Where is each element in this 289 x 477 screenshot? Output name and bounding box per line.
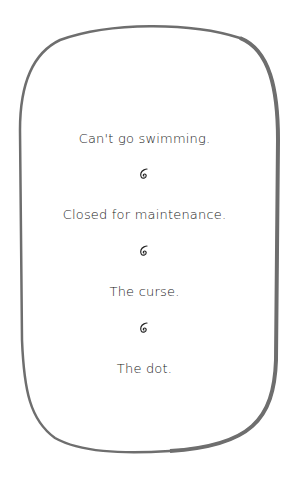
panel-line-2: Closed for maintenance.: [0, 207, 289, 222]
spiral-icon: [135, 166, 153, 184]
panel-border: [0, 0, 289, 477]
panel-line-3: The curse.: [0, 284, 289, 299]
panel-line-1: Can't go swimming.: [0, 131, 289, 146]
spiral-icon: [135, 320, 153, 338]
panel-line-4: The dot.: [0, 361, 289, 376]
spiral-icon: [135, 243, 153, 261]
